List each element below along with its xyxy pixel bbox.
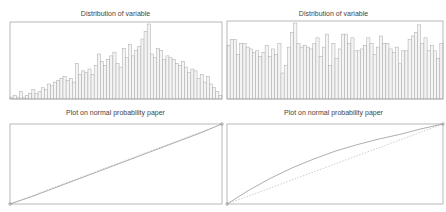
histogram-bar (262, 53, 265, 99)
histogram-bar (88, 69, 91, 99)
histogram-bar (287, 47, 290, 99)
histogram-bar (386, 43, 389, 99)
histogram-bar (275, 55, 278, 99)
histogram-bar (85, 73, 88, 99)
histogram-bar (351, 38, 354, 99)
reference-line (10, 124, 222, 204)
histogram-bar (329, 66, 332, 99)
histogram-bar (316, 38, 319, 99)
histogram-bar (433, 51, 436, 99)
histogram-bar (306, 47, 309, 99)
histogram-bar (338, 49, 341, 99)
histogram-bar (297, 43, 300, 99)
histogram-bar (163, 60, 166, 99)
histogram-bar (135, 50, 138, 99)
histogram-bar (185, 67, 188, 99)
histogram-bar (240, 43, 243, 99)
histogram-bar (319, 56, 322, 99)
histogram-bar (113, 52, 116, 99)
histogram-bar (414, 32, 417, 99)
histogram-bar (110, 56, 113, 99)
histogram-bar (237, 55, 240, 99)
histogram-bar (345, 34, 348, 99)
histogram-bar (178, 65, 181, 99)
histogram-bar (383, 43, 386, 99)
histogram-bar (216, 92, 219, 100)
histogram-bar (249, 49, 252, 99)
histogram-bar (427, 51, 430, 99)
histogram-bar (119, 67, 122, 99)
histogram-bar (128, 45, 131, 99)
histogram-bar (210, 84, 213, 99)
histogram-bar (271, 49, 274, 99)
histogram-bar (203, 82, 206, 99)
histogram-bar (51, 86, 54, 99)
histogram-bar (341, 34, 344, 99)
histogram-bar (116, 63, 119, 99)
histogram-bar (100, 62, 103, 100)
histogram-bar (82, 71, 85, 99)
reference-line (227, 124, 443, 204)
histogram-bar (294, 23, 297, 99)
histogram-bar (91, 75, 94, 99)
histogram-bar (69, 78, 72, 99)
histogram-bar (104, 65, 107, 99)
histogram-bar (29, 93, 32, 99)
histogram-bar (402, 51, 405, 99)
histogram-bar (300, 47, 303, 99)
histogram-bar (47, 84, 50, 99)
histogram-bar (175, 63, 178, 99)
histogram-panel-left: Distribution of variable (0, 0, 223, 106)
histogram-bar (313, 43, 316, 99)
histogram-bar (66, 80, 69, 99)
histogram-bar (181, 62, 184, 100)
histogram-bar (360, 49, 363, 99)
histogram-bar (132, 56, 135, 99)
histogram-bar (188, 73, 191, 99)
histogram-bar (335, 58, 338, 99)
histogram-bar (200, 75, 203, 99)
histogram-panel-right: Distribution of variable (223, 0, 446, 106)
histogram-bar (141, 39, 144, 99)
histogram-bar (107, 60, 110, 99)
histogram-bar (44, 90, 47, 99)
histogram-bar (421, 43, 424, 99)
histogram-bar (206, 77, 209, 100)
histogram-bar (166, 56, 169, 99)
histogram-bar (256, 51, 259, 99)
histogram-bar (405, 51, 408, 99)
histogram-bar (227, 45, 230, 99)
histogram-bar (303, 45, 306, 99)
histogram-bar (322, 47, 325, 99)
histogram-bar (376, 47, 379, 99)
histogram-bar (370, 43, 373, 99)
histogram-bar (389, 49, 392, 99)
histogram-bar (138, 47, 141, 100)
histogram-bar (440, 43, 443, 99)
histogram-bar (399, 64, 402, 99)
histogram-bar (230, 40, 233, 99)
histogram-bar (147, 24, 150, 99)
histogram-bar (284, 66, 287, 99)
histogram-bar (246, 47, 249, 99)
histogram-bar (310, 49, 313, 99)
histogram-bar (75, 63, 78, 99)
probability-panel-left: Plot on normal probability paper (0, 106, 223, 212)
histogram-bar (57, 80, 60, 99)
histogram-bar (437, 58, 440, 99)
histogram-bar (197, 78, 200, 99)
histogram-bar (157, 48, 160, 99)
histogram-bar (26, 95, 29, 99)
histogram-bar (144, 32, 147, 100)
histogram-bar (259, 56, 262, 99)
histogram-bar (19, 92, 22, 100)
histogram-bar (13, 95, 16, 99)
histogram-bar (41, 88, 44, 99)
histogram-bar (38, 92, 41, 100)
histogram-bar (281, 73, 284, 99)
histogram-bar (233, 40, 236, 99)
histogram-bar (150, 54, 153, 99)
probability-left-plot (0, 106, 223, 212)
histogram-bar (278, 43, 281, 99)
histogram-bar (60, 78, 63, 99)
